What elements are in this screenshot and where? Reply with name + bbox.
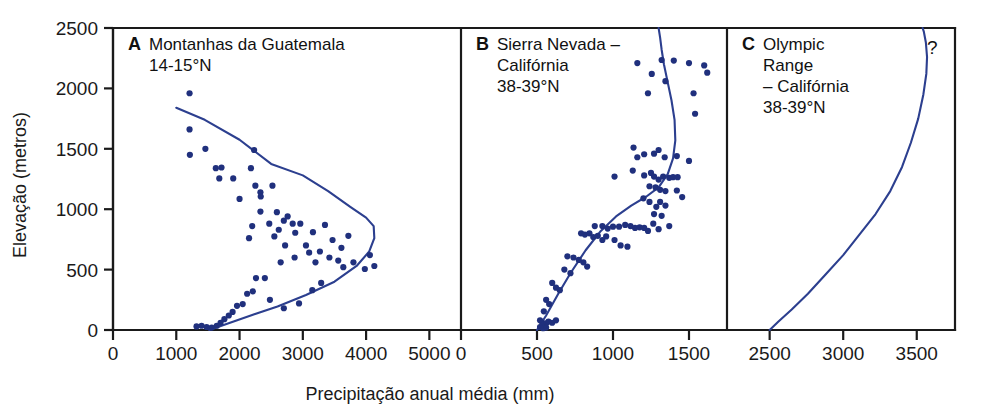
scatter-point bbox=[605, 225, 611, 231]
panel-letter: A bbox=[128, 34, 141, 54]
y-axis-tick-label: 0 bbox=[87, 320, 98, 341]
scatter-point bbox=[340, 264, 346, 270]
scatter-point bbox=[281, 305, 287, 311]
scatter-point bbox=[244, 291, 250, 297]
scatter-point bbox=[303, 242, 309, 248]
scatter-point bbox=[660, 173, 666, 179]
scatter-point bbox=[269, 183, 275, 189]
scatter-point bbox=[657, 199, 663, 205]
scatter-point bbox=[662, 188, 668, 194]
scatter-point bbox=[656, 147, 662, 153]
scatter-point bbox=[309, 287, 315, 293]
scatter-point bbox=[651, 211, 657, 217]
scatter-point bbox=[291, 254, 297, 260]
x-axis-tick-label: 500 bbox=[521, 343, 553, 364]
scatter-point bbox=[690, 90, 696, 96]
scatter-point bbox=[285, 213, 291, 219]
scatter-point bbox=[274, 209, 280, 215]
scatter-point bbox=[187, 152, 193, 158]
scatter-point bbox=[640, 195, 646, 201]
scatter-point bbox=[310, 229, 316, 235]
x-axis-tick-label: 2000 bbox=[218, 343, 260, 364]
y-axis-tick-label: 2500 bbox=[56, 18, 98, 39]
scatter-point bbox=[236, 196, 242, 202]
scatter-point bbox=[610, 224, 616, 230]
scatter-point bbox=[645, 228, 651, 234]
scatter-point bbox=[659, 57, 665, 63]
scatter-point bbox=[252, 183, 258, 189]
scatter-point bbox=[271, 233, 277, 239]
scatter-point bbox=[662, 202, 668, 208]
scatter-point bbox=[251, 147, 257, 153]
scatter-point bbox=[262, 275, 268, 281]
panel-a: 010002000300040005000AMontanhas da Guate… bbox=[108, 28, 461, 364]
x-axis-title: Precipitação anual média (mm) bbox=[305, 384, 554, 404]
panel-title-line: 38-39°N bbox=[763, 98, 826, 117]
trend-curve bbox=[176, 108, 374, 330]
scatter-point bbox=[646, 183, 652, 189]
scatter-point bbox=[296, 300, 302, 306]
scatter-point bbox=[649, 71, 655, 77]
scatter-point bbox=[659, 213, 665, 219]
scatter-point bbox=[611, 237, 617, 243]
scatter-point bbox=[186, 90, 192, 96]
scatter-point bbox=[603, 233, 609, 239]
panel-title-line: – Califórnia bbox=[763, 77, 850, 96]
scatter-point bbox=[350, 259, 356, 265]
scatter-point bbox=[282, 242, 288, 248]
x-axis-tick-label: 5000 bbox=[408, 343, 450, 364]
scatter-point bbox=[675, 174, 681, 180]
scatter-point bbox=[186, 126, 192, 132]
scatter-point bbox=[650, 221, 656, 227]
y-axis-tick-label: 2000 bbox=[56, 78, 98, 99]
scatter-point bbox=[345, 233, 351, 239]
x-axis-tick-label: 4000 bbox=[345, 343, 387, 364]
scatter-point bbox=[641, 172, 647, 178]
scatter-point bbox=[306, 250, 312, 256]
y-axis: 05001000150020002500 bbox=[56, 18, 113, 341]
scatter-point bbox=[367, 252, 373, 258]
panel-annotation: ? bbox=[927, 37, 938, 58]
scatter-point bbox=[641, 151, 647, 157]
scatter-point bbox=[326, 254, 332, 260]
scatter-point bbox=[701, 62, 707, 68]
scatter-point bbox=[202, 146, 208, 152]
y-axis-tick-label: 500 bbox=[66, 260, 98, 281]
scatter-point bbox=[630, 167, 636, 173]
panel-letter: C bbox=[742, 34, 755, 54]
x-axis-tick-label: 1500 bbox=[668, 343, 710, 364]
scatter-point bbox=[657, 187, 663, 193]
scatter-point bbox=[322, 222, 328, 228]
scatter-point bbox=[230, 175, 236, 181]
x-axis-tick-label: 2500 bbox=[749, 343, 791, 364]
y-axis-title-group: Elevação (metros) bbox=[10, 112, 30, 258]
panel-letter: B bbox=[476, 34, 489, 54]
scatter-point bbox=[595, 233, 601, 239]
scatter-point bbox=[218, 164, 224, 170]
scatter-point bbox=[290, 221, 296, 227]
scatter-point bbox=[278, 259, 284, 265]
scatter-point bbox=[646, 199, 652, 205]
scatter-point bbox=[335, 257, 341, 263]
scatter-point bbox=[234, 303, 240, 309]
scatter-point bbox=[258, 193, 264, 199]
scatter-point bbox=[634, 154, 640, 160]
x-axis-tick-label: 3500 bbox=[896, 343, 938, 364]
scatter-point bbox=[666, 223, 672, 229]
scatter-point bbox=[543, 324, 549, 330]
x-axis-tick-label: 0 bbox=[108, 343, 119, 364]
scatter-point bbox=[216, 175, 222, 181]
scatter-point bbox=[338, 245, 344, 251]
scatter-point bbox=[634, 60, 640, 66]
figure-container: Elevação (metros) 05001000150020002500 0… bbox=[0, 0, 996, 413]
scatter-point bbox=[557, 287, 563, 293]
scatter-point bbox=[624, 244, 630, 250]
scatter-point bbox=[567, 270, 573, 276]
scatter-point bbox=[611, 173, 617, 179]
scatter-point bbox=[662, 154, 668, 160]
scatter-point bbox=[704, 70, 710, 76]
scatter-point bbox=[653, 204, 659, 210]
scatter-point bbox=[541, 308, 547, 314]
y-axis-tick-label: 1000 bbox=[56, 199, 98, 220]
scatter-point bbox=[246, 235, 252, 241]
